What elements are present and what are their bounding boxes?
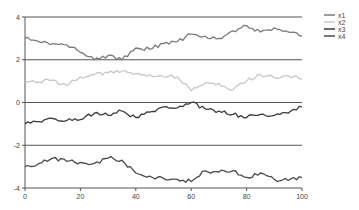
x-tick-label: 0 bbox=[23, 193, 27, 200]
y-tick-label: -2 bbox=[14, 142, 20, 149]
x-tick-label: 60 bbox=[187, 193, 195, 200]
legend-label-x3: x3 bbox=[338, 26, 346, 33]
legend-label-x4: x4 bbox=[338, 33, 346, 40]
y-tick-label: 2 bbox=[16, 56, 20, 63]
legend: x1x2x3x4 bbox=[324, 12, 346, 40]
axes: 420-2-4020406080100 bbox=[14, 14, 308, 201]
y-tick-label: -4 bbox=[14, 185, 20, 192]
x-tick-label: 100 bbox=[296, 193, 308, 200]
y-tick-label: 0 bbox=[16, 99, 20, 106]
series-line-x4 bbox=[25, 157, 302, 183]
legend-label-x2: x2 bbox=[338, 19, 346, 26]
gridlines bbox=[25, 17, 302, 188]
line-chart: 420-2-4020406080100 x1x2x3x4 bbox=[0, 0, 359, 210]
series-lines bbox=[25, 25, 302, 182]
series-line-x3 bbox=[25, 102, 302, 124]
series-line-x2 bbox=[25, 70, 302, 90]
y-tick-label: 4 bbox=[16, 14, 20, 21]
legend-label-x1: x1 bbox=[338, 12, 346, 19]
x-tick-label: 40 bbox=[132, 193, 140, 200]
x-tick-label: 80 bbox=[243, 193, 251, 200]
x-tick-label: 20 bbox=[77, 193, 85, 200]
series-line-x1 bbox=[25, 25, 302, 59]
